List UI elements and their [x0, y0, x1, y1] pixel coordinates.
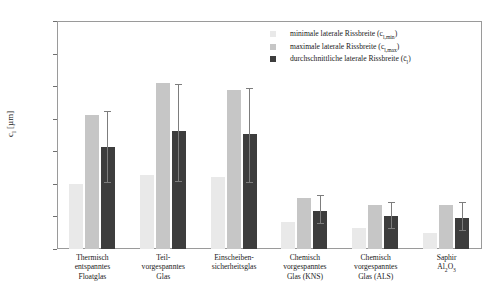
legend-item: durchschnittliche laterale Rissbreite (c… — [270, 53, 485, 65]
legend-swatch — [270, 56, 276, 62]
legend-label-main: maximale laterale Rissbreite (c — [290, 42, 384, 51]
bar-group — [140, 21, 187, 249]
error-bar — [249, 89, 250, 183]
bar-chart-figure: cl [µm] 050100150200250300350 Thermische… — [0, 0, 495, 298]
x-axis-category-line: sicherheitsglas — [199, 262, 270, 271]
x-axis-category-label: ChemischvorgespanntesGlas (KNS) — [270, 253, 341, 281]
error-bar-cap — [388, 202, 395, 203]
bar — [352, 228, 366, 249]
y-tick-mark — [53, 249, 57, 250]
error-bar-cap — [104, 182, 111, 183]
x-axis-category-label: ThermischentspanntesFloatglas — [57, 253, 128, 281]
legend-item: maximale laterale Rissbreite (cl,max) — [270, 41, 485, 53]
legend-label-tail: ) — [408, 54, 411, 63]
bar-group — [211, 21, 258, 249]
x-axis-category-label: Teil-vorgespanntesGlas — [128, 253, 199, 281]
x-axis-category-line: Einscheiben- — [199, 253, 270, 262]
legend-item: minimale laterale Rissbreite (cl,min) — [270, 28, 485, 40]
error-bar-cap — [388, 228, 395, 229]
error-bar-cap — [175, 181, 182, 182]
bar — [439, 205, 453, 249]
error-bar-cap — [104, 111, 111, 112]
y-axis-title-unit: [µm] — [5, 111, 15, 131]
bar-group — [69, 21, 116, 249]
x-axis-category-line: Thermisch — [57, 253, 128, 262]
legend-swatch — [270, 31, 276, 37]
x-axis-category-line: Saphir — [411, 253, 482, 262]
x-axis-category-line: Glas (KNS) — [270, 272, 341, 281]
error-bar — [107, 112, 108, 182]
bar — [140, 175, 154, 249]
bar — [227, 90, 241, 249]
error-bar — [178, 85, 179, 182]
error-bar-cap — [317, 223, 324, 224]
legend-label-subscript: l,min — [383, 34, 395, 40]
x-axis-category-line: Glas (ALS) — [340, 272, 411, 281]
legend-label-subscript: l,max — [384, 46, 397, 52]
x-axis-category-line: entspanntes — [57, 262, 128, 271]
error-bar-cap — [246, 88, 253, 89]
y-axis-title: cl [µm] — [5, 89, 17, 159]
bar — [211, 177, 225, 249]
error-bar — [320, 196, 321, 225]
bar — [69, 184, 83, 249]
bar — [368, 205, 382, 249]
error-bar — [391, 203, 392, 228]
x-axis-category-line: vorgespanntes — [270, 262, 341, 271]
bar — [281, 222, 295, 249]
bar — [297, 198, 311, 249]
x-axis-category-label: ChemischvorgespanntesGlas (ALS) — [340, 253, 411, 281]
x-axis-category-line: Teil- — [128, 253, 199, 262]
x-axis-category-label: SaphirAl2O3 — [411, 253, 482, 275]
x-axis-category-line: Glas — [128, 272, 199, 281]
error-bar-cap — [175, 84, 182, 85]
x-axis-category-line: Chemisch — [340, 253, 411, 262]
error-bar-cap — [459, 202, 466, 203]
legend-label-main: durchschnittliche laterale Rissbreite (c… — [290, 54, 407, 63]
x-axis-category-line: Floatglas — [57, 272, 128, 281]
y-axis: cl [µm] 050100150200250300350 — [0, 0, 57, 298]
bar — [423, 233, 437, 249]
bar — [85, 115, 99, 249]
y-axis-title-symbol: c — [5, 133, 15, 137]
error-bar-cap — [459, 230, 466, 231]
x-axis-category-line: Al2O3 — [411, 262, 482, 275]
legend-label-tail: ) — [397, 42, 400, 51]
error-bar — [462, 203, 463, 231]
legend-label-tail: ) — [395, 29, 398, 38]
error-bar-cap — [246, 182, 253, 183]
legend-label: durchschnittliche laterale Rissbreite (c… — [290, 53, 411, 68]
y-axis-title-subscript: l — [10, 131, 17, 133]
x-axis-category-line: vorgespanntes — [128, 262, 199, 271]
legend-swatch — [270, 44, 276, 50]
x-axis-category-label: Einscheiben-sicherheitsglas — [199, 253, 270, 272]
x-axis-labels: ThermischentspanntesFloatglasTeil-vorges… — [57, 253, 482, 298]
legend: minimale laterale Rissbreite (cl,min)max… — [270, 28, 485, 64]
legend-label-main: minimale laterale Rissbreite (c — [290, 29, 383, 38]
bar — [156, 83, 170, 249]
x-axis-category-line: vorgespanntes — [340, 262, 411, 271]
x-axis-category-line: Chemisch — [270, 253, 341, 262]
error-bar-cap — [317, 195, 324, 196]
